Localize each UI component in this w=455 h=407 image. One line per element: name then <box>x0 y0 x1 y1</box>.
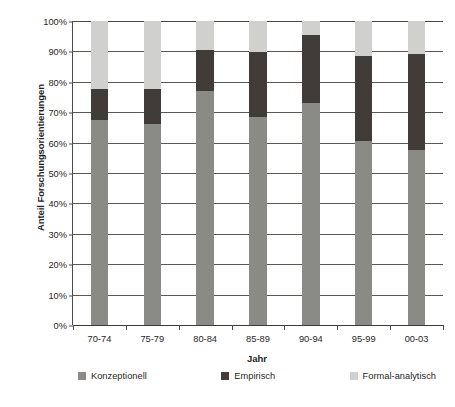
bar-segment[interactable] <box>355 141 372 325</box>
bar-group[interactable] <box>196 21 213 325</box>
y-tick-mark <box>69 52 73 53</box>
y-tick-mark <box>69 234 73 235</box>
bar-segment[interactable] <box>302 35 319 103</box>
bar-segment[interactable] <box>196 21 213 50</box>
y-tick-label: 0% <box>54 321 67 331</box>
y-tick-mark <box>69 143 73 144</box>
x-tick-label-95-99: 95-99 <box>352 334 376 344</box>
y-tick-label: 50% <box>48 169 67 179</box>
bar-segment[interactable] <box>408 54 425 151</box>
bar-segment[interactable] <box>302 103 319 325</box>
y-tick-mark <box>69 22 73 23</box>
bar-segment[interactable] <box>249 117 266 325</box>
x-tick-mark <box>390 325 391 330</box>
legend-swatch-icon <box>78 372 86 380</box>
bar-segment[interactable] <box>249 52 266 117</box>
chart-legend: KonzeptionellEmpirischFormal-analytisch <box>72 371 444 381</box>
chart-figure: Anteil Forschungsorientierungen 0%10%20%… <box>0 0 455 407</box>
y-tick-label: 80% <box>48 78 67 88</box>
bar-group[interactable] <box>408 21 425 325</box>
y-tick-label: 60% <box>48 139 67 149</box>
y-tick-mark <box>69 295 73 296</box>
bar-segment[interactable] <box>408 21 425 54</box>
legend-item[interactable]: Konzeptionell <box>78 371 147 381</box>
legend-swatch-icon <box>221 372 229 380</box>
bar-segment[interactable] <box>91 21 108 89</box>
y-tick-mark <box>69 174 73 175</box>
bar-segment[interactable] <box>91 120 108 325</box>
bar-segment[interactable] <box>249 21 266 52</box>
bar-segment[interactable] <box>91 89 108 119</box>
bar-segment[interactable] <box>144 124 161 325</box>
bar-segment[interactable] <box>144 89 161 124</box>
bar-segment[interactable] <box>302 21 319 35</box>
y-tick-label: 20% <box>48 260 67 270</box>
bar-group[interactable] <box>355 21 372 325</box>
y-tick-mark <box>69 204 73 205</box>
caption-strip <box>0 396 455 407</box>
bar-group[interactable] <box>91 21 108 325</box>
x-tick-mark <box>73 325 74 330</box>
x-axis-title: Jahr <box>72 353 442 364</box>
x-tick-mark <box>126 325 127 330</box>
y-tick-mark <box>69 265 73 266</box>
bar-group[interactable] <box>144 21 161 325</box>
x-tick-mark <box>337 325 338 330</box>
y-tick-mark <box>69 82 73 83</box>
x-tick-label-90-94: 90-94 <box>299 334 323 344</box>
bar-segment[interactable] <box>144 21 161 89</box>
x-tick-label-75-79: 75-79 <box>140 334 164 344</box>
gridline-0%: 0% <box>73 325 443 326</box>
bar-segment[interactable] <box>408 150 425 325</box>
bar-group[interactable] <box>302 21 319 325</box>
y-tick-label: 90% <box>48 47 67 57</box>
bar-segment[interactable] <box>196 50 213 91</box>
legend-item[interactable]: Empirisch <box>221 371 275 381</box>
y-axis-title: Anteil Forschungsorientierungen <box>35 28 46 288</box>
plot-inner: 0%10%20%30%40%50%60%70%80%90%100%70-7475… <box>73 21 443 325</box>
bar-segment[interactable] <box>355 21 372 56</box>
y-tick-label: 100% <box>43 17 67 27</box>
x-tick-mark <box>179 325 180 330</box>
y-tick-label: 30% <box>48 230 67 240</box>
bar-segment[interactable] <box>355 56 372 141</box>
bar-segment[interactable] <box>196 91 213 325</box>
legend-item[interactable]: Formal-analytisch <box>350 371 436 381</box>
y-tick-label: 10% <box>48 291 67 301</box>
y-tick-label: 40% <box>48 199 67 209</box>
legend-label: Konzeptionell <box>91 371 147 381</box>
x-tick-mark <box>232 325 233 330</box>
y-tick-label: 70% <box>48 108 67 118</box>
x-tick-label-00-03: 00-03 <box>405 334 429 344</box>
x-tick-label-80-84: 80-84 <box>193 334 217 344</box>
bar-group[interactable] <box>249 21 266 325</box>
legend-label: Formal-analytisch <box>363 371 436 381</box>
x-tick-label-70-74: 70-74 <box>88 334 112 344</box>
x-tick-mark <box>284 325 285 330</box>
legend-label: Empirisch <box>234 371 275 381</box>
plot-area: 0%10%20%30%40%50%60%70%80%90%100%70-7475… <box>72 21 443 325</box>
y-tick-mark <box>69 113 73 114</box>
legend-swatch-icon <box>350 372 358 380</box>
x-tick-mark <box>443 325 444 330</box>
x-tick-label-85-89: 85-89 <box>246 334 270 344</box>
